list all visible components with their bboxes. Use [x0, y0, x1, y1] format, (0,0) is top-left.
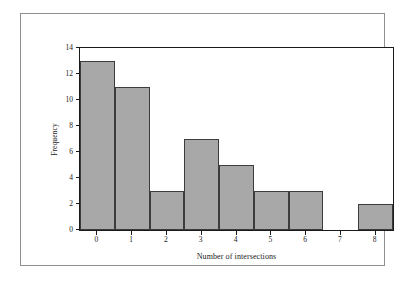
- y-tick-label-4: 4: [69, 174, 73, 182]
- x-tick-label-8: 8: [373, 236, 377, 244]
- y-tick-label-0: 0: [69, 226, 73, 234]
- y-axis-ticks: 02468101214: [80, 48, 393, 230]
- y-tick-10: 10: [76, 99, 80, 100]
- y-tick-6: 6: [76, 151, 80, 152]
- x-tick-label-1: 1: [129, 236, 133, 244]
- y-tick-label-2: 2: [69, 200, 73, 208]
- x-axis-title: Number of intersections: [79, 252, 394, 261]
- x-tick-label-5: 5: [268, 236, 272, 244]
- y-tick-12: 12: [76, 73, 80, 74]
- y-tick-4: 4: [76, 177, 80, 178]
- figure-outer-border: 02468101214 Frequency 012345678 Number o…: [20, 13, 385, 266]
- y-tick-2: 2: [76, 203, 80, 204]
- x-tick-label-7: 7: [338, 236, 342, 244]
- x-tick-label-3: 3: [199, 236, 203, 244]
- y-tick-label-14: 14: [66, 44, 74, 52]
- y-axis-title-label: Frequency: [50, 123, 59, 156]
- plot-inner-surface: 02468101214: [80, 48, 393, 230]
- y-axis-title: Frequency: [48, 47, 60, 231]
- x-tick-label-2: 2: [164, 236, 168, 244]
- histogram-figure: 02468101214 Frequency 012345678 Number o…: [0, 0, 405, 282]
- y-tick-8: 8: [76, 125, 80, 126]
- plot-area-frame: 02468101214: [79, 47, 394, 231]
- y-tick-14: 14: [76, 47, 80, 48]
- x-tick-label-6: 6: [303, 236, 307, 244]
- x-tick-label-4: 4: [234, 236, 238, 244]
- y-tick-label-8: 8: [69, 122, 73, 130]
- y-tick-0: 0: [76, 229, 80, 230]
- y-tick-label-10: 10: [66, 96, 74, 104]
- y-tick-label-12: 12: [66, 70, 74, 78]
- y-tick-label-6: 6: [69, 148, 73, 156]
- x-tick-label-0: 0: [95, 236, 99, 244]
